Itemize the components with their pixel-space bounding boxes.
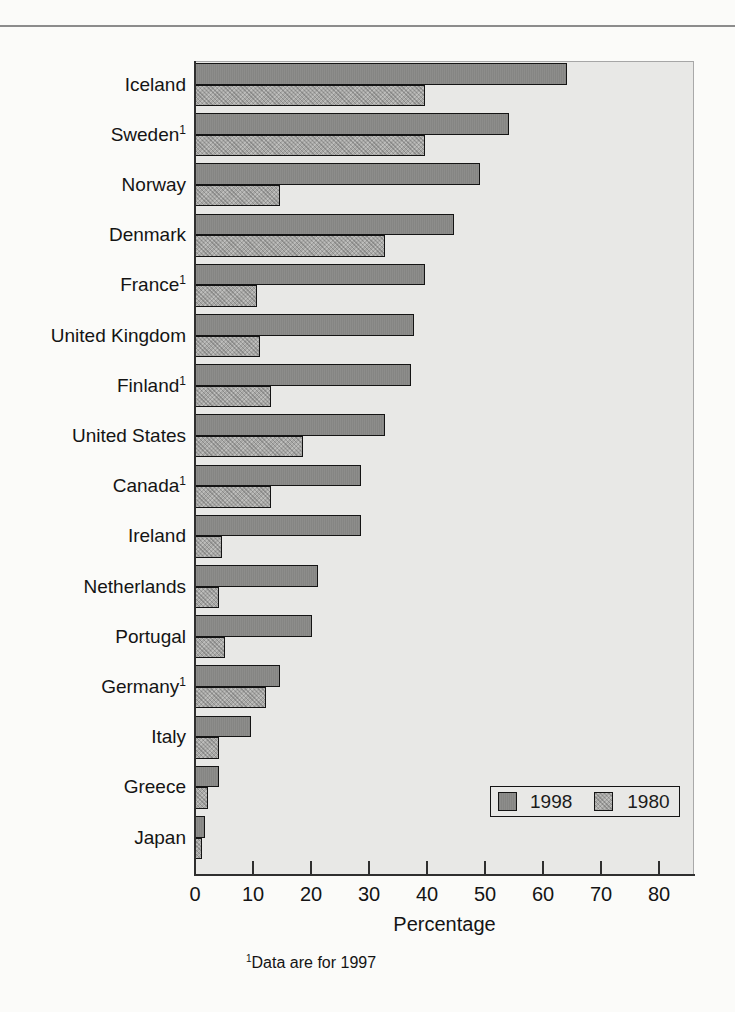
category-label-italy: Italy (0, 725, 186, 749)
bar-1980-united-kingdom (194, 336, 260, 358)
x-tick-label-20: 20 (281, 883, 341, 906)
bar-1980-united-states (194, 436, 303, 458)
x-axis-line (194, 874, 695, 876)
bar-1998-italy (194, 716, 251, 738)
category-label-japan: Japan (0, 826, 186, 850)
x-tick-40 (426, 861, 428, 875)
bar-1980-greece (194, 787, 208, 809)
footnote-marker: 1 (179, 273, 186, 287)
legend: 1998 1980 (490, 786, 680, 817)
footnote-marker: 1 (179, 474, 186, 488)
bar-1998-sweden (194, 113, 509, 135)
bar-1980-norway (194, 185, 280, 207)
bar-1998-france (194, 264, 425, 286)
bar-1980-portugal (194, 637, 225, 659)
bar-1980-sweden (194, 135, 425, 157)
legend-swatch-1980 (594, 792, 613, 811)
bar-1998-norway (194, 163, 480, 185)
category-label-norway: Norway (0, 173, 186, 197)
category-label-portugal: Portugal (0, 625, 186, 649)
x-tick-label-10: 10 (223, 883, 283, 906)
x-tick-20 (310, 861, 312, 875)
legend-label-1980: 1980 (627, 791, 669, 813)
bar-1998-united-kingdom (194, 314, 414, 336)
category-label-denmark: Denmark (0, 223, 186, 247)
x-tick-80 (658, 861, 660, 875)
bar-1998-netherlands (194, 565, 318, 587)
category-label-netherlands: Netherlands (0, 575, 186, 599)
page-top-rule (0, 25, 735, 27)
x-tick-10 (252, 861, 254, 875)
footnote-marker: 1 (179, 373, 186, 387)
x-tick-label-30: 30 (339, 883, 399, 906)
category-label-canada: Canada1 (0, 474, 186, 498)
category-label-ireland: Ireland (0, 524, 186, 548)
category-label-sweden: Sweden1 (0, 123, 186, 147)
x-axis-title: Percentage (195, 913, 694, 936)
bar-1998-canada (194, 465, 361, 487)
bar-1998-denmark (194, 214, 454, 236)
category-label-germany: Germany1 (0, 675, 186, 699)
x-tick-70 (600, 861, 602, 875)
births-bar-chart: IcelandSweden1NorwayDenmarkFrance1United… (0, 0, 735, 1012)
category-label-iceland: Iceland (0, 73, 186, 97)
x-tick-label-0: 0 (165, 883, 225, 906)
footnote-text: Data are for 1997 (252, 954, 377, 971)
chart-footnote: 1Data are for 1997 (246, 954, 376, 972)
category-label-united-kingdom: United Kingdom (0, 324, 186, 348)
bar-1998-iceland (194, 63, 567, 85)
legend-label-1998: 1998 (530, 791, 572, 813)
x-tick-60 (542, 861, 544, 875)
bar-1980-iceland (194, 85, 425, 107)
bar-1980-canada (194, 486, 271, 508)
bar-1980-finland (194, 386, 271, 408)
bar-1980-ireland (194, 536, 222, 558)
bar-1998-greece (194, 766, 219, 788)
legend-swatch-1998 (498, 792, 517, 811)
y-axis-line (194, 61, 196, 876)
x-tick-label-50: 50 (455, 883, 515, 906)
x-tick-label-40: 40 (397, 883, 457, 906)
bar-1980-germany (194, 687, 266, 709)
category-label-france: France1 (0, 273, 186, 297)
category-label-finland: Finland1 (0, 374, 186, 398)
footnote-marker: 1 (179, 675, 186, 689)
bar-1998-finland (194, 364, 411, 386)
bar-1998-united-states (194, 414, 385, 436)
x-tick-label-70: 70 (571, 883, 631, 906)
category-label-greece: Greece (0, 775, 186, 799)
category-label-united-states: United States (0, 424, 186, 448)
bar-1998-germany (194, 665, 280, 687)
bar-1998-portugal (194, 615, 312, 637)
x-tick-50 (484, 861, 486, 875)
footnote-marker: 1 (179, 122, 186, 136)
x-tick-label-60: 60 (513, 883, 573, 906)
x-tick-30 (368, 861, 370, 875)
x-tick-label-80: 80 (629, 883, 689, 906)
bar-1980-italy (194, 737, 219, 759)
bar-1980-netherlands (194, 587, 219, 609)
bar-1980-france (194, 285, 257, 307)
bar-1980-denmark (194, 235, 385, 257)
bar-1998-ireland (194, 515, 361, 537)
